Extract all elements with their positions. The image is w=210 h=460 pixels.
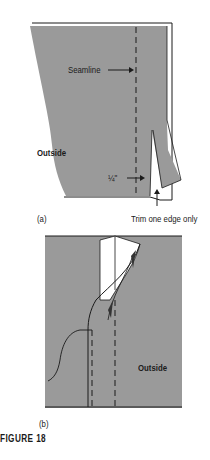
sewing-diagram — [0, 0, 210, 460]
trim-label: Trim one edge only — [131, 214, 197, 224]
panel-a-label: (a) — [37, 214, 47, 224]
quarter-inch-label: ¼" — [108, 173, 117, 183]
outside-label-b: Outside — [138, 363, 167, 373]
seamline-label: Seamline — [68, 65, 100, 75]
outside-label-a: Outside — [37, 148, 66, 158]
figure-18: Seamline Outside ¼" Trim one edge only (… — [0, 0, 210, 460]
figure-caption: FIGURE 18 — [0, 434, 46, 444]
panel-b-drawing — [45, 236, 182, 408]
panel-a-drawing — [30, 23, 181, 206]
panel-b-label: (b) — [39, 419, 49, 429]
